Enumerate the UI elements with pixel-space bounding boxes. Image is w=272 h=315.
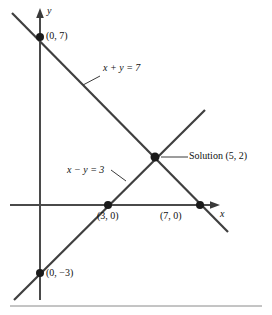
- point-label-solution: Solution (5, 2): [189, 151, 247, 161]
- point-label-7-0: (7, 0): [160, 211, 182, 221]
- math-figure-system-of-equations: y x x + y = 7 x − y = 3 (0, 7) (3, 0) (7…: [0, 0, 272, 315]
- y-axis: [36, 8, 44, 300]
- equation-label-x-plus-y: x + y = 7: [103, 63, 140, 73]
- point-label-0-minus-3: (0, −3): [46, 268, 73, 278]
- x-axis-label: x: [220, 209, 224, 219]
- x-axis: [10, 201, 220, 209]
- dot-point-7-0: [196, 201, 204, 209]
- leader-line-x-plus-y: [83, 76, 100, 85]
- equation-label-x-minus-y: x − y = 3: [67, 165, 104, 175]
- leader-line-x-minus-y: [111, 170, 126, 181]
- line-x-plus-y-equals-7: [12, 13, 228, 232]
- dot-point-3-0: [104, 201, 112, 209]
- dot-point-0-7: [36, 33, 44, 41]
- dot-point-solution: [151, 153, 160, 162]
- point-label-0-7: (0, 7): [46, 31, 68, 41]
- y-axis-label: y: [47, 6, 51, 16]
- point-label-3-0: (3, 0): [97, 211, 119, 221]
- dot-point-0-minus-3: [36, 269, 44, 277]
